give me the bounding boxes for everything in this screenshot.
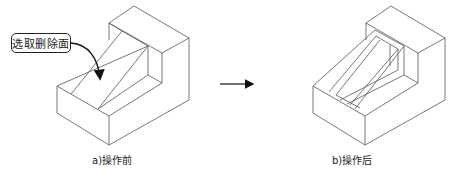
part-after [313, 6, 445, 145]
callout-select-face: 选取删除面 [11, 33, 71, 53]
callout-leader [71, 43, 100, 78]
part-before [57, 6, 189, 145]
caption-after: b)操作后 [332, 152, 372, 167]
diagram-canvas [0, 0, 451, 172]
caption-before: a)操作前 [92, 152, 132, 167]
